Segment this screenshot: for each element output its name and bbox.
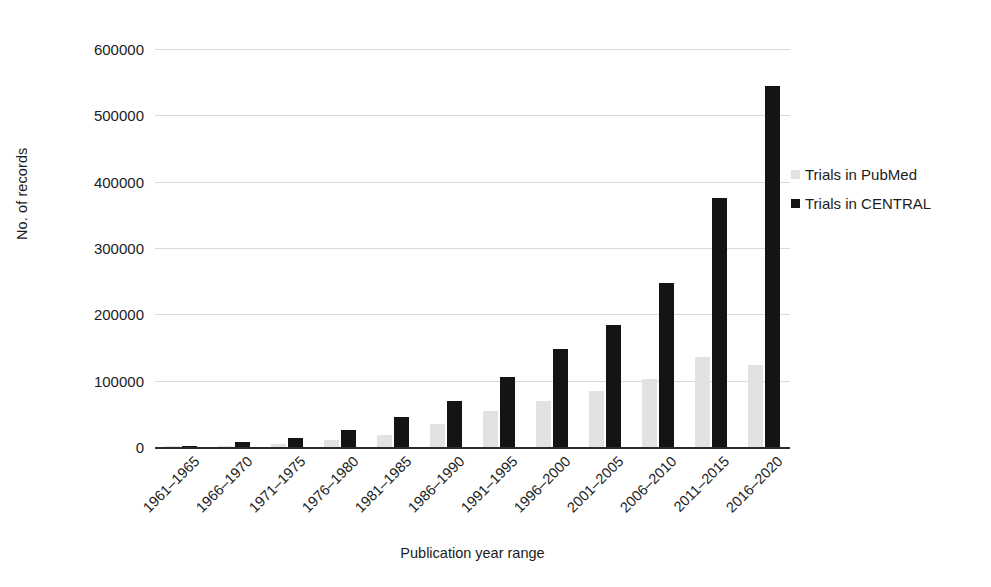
bar-group	[737, 49, 790, 447]
bar[interactable]	[430, 424, 445, 447]
bar[interactable]	[394, 417, 409, 447]
bar-group	[684, 49, 737, 447]
legend: Trials in PubMedTrials in CENTRAL	[791, 160, 981, 218]
x-tick-cell: 1996–2000	[525, 449, 578, 539]
bar[interactable]	[765, 86, 780, 447]
x-tick-label: 1961–1965	[140, 453, 203, 516]
x-tick-cell: 1976–1980	[314, 449, 367, 539]
y-tick-label: 300000	[94, 240, 144, 257]
y-tick-label: 400000	[94, 173, 144, 190]
bars-layer	[155, 49, 790, 447]
bar[interactable]	[589, 391, 604, 447]
bar[interactable]	[324, 440, 339, 447]
bar-chart: No. of records 0100000200000300000400000…	[0, 0, 991, 587]
bar[interactable]	[695, 357, 710, 447]
x-tick-cell: 1981–1985	[367, 449, 420, 539]
legend-item[interactable]: Trials in PubMed	[791, 160, 981, 189]
bar[interactable]	[341, 430, 356, 447]
bar-group	[473, 49, 526, 447]
x-tick-cell: 2016–2020	[737, 449, 790, 539]
bar[interactable]	[606, 325, 621, 447]
x-tick-cell: 1966–1970	[208, 449, 261, 539]
y-tick-label: 500000	[94, 107, 144, 124]
bar[interactable]	[447, 401, 462, 447]
y-tick-label: 0	[136, 439, 144, 456]
bar-group	[261, 49, 314, 447]
bar-group	[525, 49, 578, 447]
bar[interactable]	[642, 379, 657, 447]
x-tick-cell: 1961–1965	[155, 449, 208, 539]
bar[interactable]	[712, 198, 727, 447]
bar[interactable]	[235, 442, 250, 447]
y-tick-label: 100000	[94, 372, 144, 389]
legend-swatch-icon	[791, 199, 800, 208]
bar-group	[578, 49, 631, 447]
bar-group	[631, 49, 684, 447]
bar[interactable]	[271, 444, 286, 447]
x-tick-cell: 2001–2005	[578, 449, 631, 539]
x-tick-cell: 2006–2010	[631, 449, 684, 539]
bar[interactable]	[377, 435, 392, 447]
bar[interactable]	[483, 411, 498, 447]
x-tick-cell: 2011–2015	[684, 449, 737, 539]
bar-group	[208, 49, 261, 447]
bar[interactable]	[218, 446, 233, 447]
plot-area: 0100000200000300000400000500000600000	[155, 49, 790, 447]
x-tick-cell: 1986–1990	[420, 449, 473, 539]
bar[interactable]	[659, 283, 674, 448]
bar[interactable]	[536, 401, 551, 447]
legend-label: Trials in CENTRAL	[805, 195, 931, 212]
bar[interactable]	[553, 349, 568, 447]
legend-item[interactable]: Trials in CENTRAL	[791, 189, 981, 218]
bar-group	[367, 49, 420, 447]
legend-label: Trials in PubMed	[805, 166, 917, 183]
x-axis-title: Publication year range	[155, 545, 790, 561]
bar[interactable]	[748, 365, 763, 447]
y-tick-label: 200000	[94, 306, 144, 323]
x-tick-cell: 1991–1995	[473, 449, 526, 539]
legend-swatch-icon	[791, 170, 800, 179]
bar-group	[420, 49, 473, 447]
bar[interactable]	[500, 377, 515, 447]
bar[interactable]	[165, 446, 180, 447]
y-axis-title: No. of records	[14, 40, 30, 240]
x-tick-cell: 1971–1975	[261, 449, 314, 539]
bar-group	[314, 49, 367, 447]
y-tick-label: 600000	[94, 41, 144, 58]
bar[interactable]	[182, 446, 197, 447]
x-axis-tick-labels: 1961–19651966–19701971–19751976–19801981…	[155, 449, 790, 539]
bar[interactable]	[288, 438, 303, 447]
bar-group	[155, 49, 208, 447]
